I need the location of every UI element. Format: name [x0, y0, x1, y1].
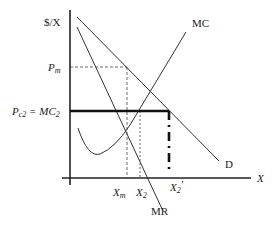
x-axis-label: X	[256, 172, 265, 184]
cap-price-label: Pc2 = MC2	[11, 105, 60, 119]
monopoly-price-label: Pm	[47, 61, 61, 75]
demand-curve	[77, 17, 219, 161]
mc-label: MC	[192, 17, 209, 29]
economics-diagram: $/X X MC D MR Pm Pc2 = MC2 Xm X2 X2′	[0, 0, 277, 229]
demand-at-cap-qty-label: X2′	[169, 178, 184, 195]
y-axis-label: $/X	[44, 16, 61, 28]
demand-label: D	[225, 158, 233, 170]
marginal-revenue-curve	[77, 27, 163, 211]
cap-qty-label: X2	[135, 186, 147, 200]
monopoly-qty-label: Xm	[112, 186, 126, 200]
mr-label: MR	[151, 205, 169, 217]
